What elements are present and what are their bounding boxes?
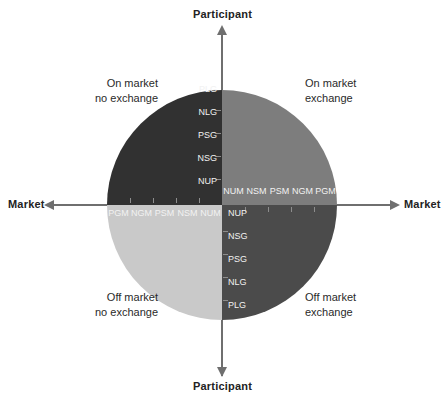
tick-label-top-left-4: NUP [175, 176, 217, 186]
tick-label-left-2: PSM [153, 208, 176, 218]
tick-label-bottom-right-4: PLG [228, 300, 270, 310]
quadrant-diagram: Participant Participant Market Market PL… [0, 0, 442, 402]
quadrant-caption-bottom-left: Off market no exchange [28, 290, 158, 320]
tick-label-left-1: NGM [130, 208, 153, 218]
tick-notch [153, 198, 154, 203]
tick-label-top-left-1: NLG [175, 107, 217, 117]
tick-label-right-0: NUM [222, 186, 245, 196]
quadrant-circle [107, 90, 337, 320]
tick-label-right-3: NGM [291, 186, 314, 196]
tick-label-left-4: NUM [199, 208, 222, 218]
quadrant-caption-top-right-line2: exchange [305, 91, 435, 106]
axis-label-top: Participant [193, 8, 252, 20]
axis-arrow-right-icon [390, 200, 400, 210]
tick-notch [130, 198, 131, 203]
axis-arrow-up-icon [217, 25, 227, 35]
quadrant-caption-bottom-left-line1: Off market [28, 290, 158, 305]
axis-label-right: Market [404, 198, 441, 210]
axis-label-left: Market [8, 198, 45, 210]
quadrant-caption-top-right-line1: On market [305, 76, 435, 91]
tick-label-left-3: NSM [176, 208, 199, 218]
tick-label-top-left-2: PSG [175, 130, 217, 140]
tick-label-bottom-right-3: NLG [228, 277, 270, 287]
tick-label-bottom-right-2: PSG [228, 254, 270, 264]
quadrant-caption-top-left: On market no exchange [28, 76, 158, 106]
quadrant-caption-top-left-line2: no exchange [28, 91, 158, 106]
tick-notch [176, 198, 177, 203]
tick-label-top-left-0: PLG [175, 84, 217, 94]
tick-notch [291, 207, 292, 212]
quadrant-caption-bottom-right-line2: exchange [305, 305, 435, 320]
quadrant-caption-bottom-right-line1: Off market [305, 290, 435, 305]
tick-label-right-1: NSM [245, 186, 268, 196]
axis-arrow-down-icon [217, 367, 227, 377]
quadrant-caption-bottom-left-line2: no exchange [28, 305, 158, 320]
tick-label-left-0: PGM [107, 208, 130, 218]
quadrant-caption-top-right: On market exchange [305, 76, 435, 106]
tick-label-right-4: PGM [314, 186, 337, 196]
tick-label-bottom-right-0: NUP [228, 208, 270, 218]
axis-label-bottom: Participant [193, 380, 252, 392]
tick-label-top-left-3: NSG [175, 153, 217, 163]
quadrant-caption-top-left-line1: On market [28, 76, 158, 91]
tick-label-right-2: PSM [268, 186, 291, 196]
tick-notch [199, 198, 200, 203]
quadrant-caption-bottom-right: Off market exchange [305, 290, 435, 320]
axis-arrow-left-icon [44, 200, 54, 210]
tick-notch [314, 207, 315, 212]
tick-label-bottom-right-1: NSG [228, 231, 270, 241]
